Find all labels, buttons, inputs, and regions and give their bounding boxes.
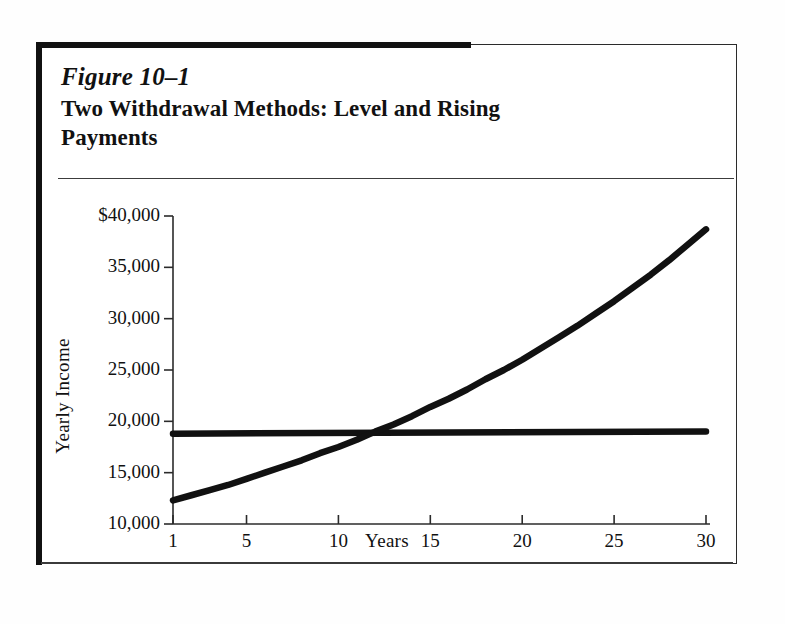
x-tick-label: 25 bbox=[584, 530, 644, 552]
x-tick-label: 10 bbox=[308, 530, 368, 552]
x-tick-label: 15 bbox=[400, 530, 460, 552]
figure-page: Figure 10–1 Two Withdrawal Methods: Leve… bbox=[0, 0, 785, 624]
y-tick-label: 25,000 bbox=[108, 358, 160, 380]
chart-area: Yearly Income Years 10,00015,00020,00025… bbox=[37, 44, 737, 564]
chart-plot-svg bbox=[37, 44, 737, 564]
y-tick-label: $40,000 bbox=[98, 204, 160, 226]
y-tick-label: 20,000 bbox=[108, 409, 160, 431]
figure-frame: Figure 10–1 Two Withdrawal Methods: Leve… bbox=[37, 44, 737, 564]
y-tick-label: 35,000 bbox=[108, 255, 160, 277]
y-tick-label: 30,000 bbox=[108, 307, 160, 329]
x-tick-label: 20 bbox=[492, 530, 552, 552]
x-tick-label: 5 bbox=[217, 530, 277, 552]
x-tick-label: 30 bbox=[676, 530, 736, 552]
y-tick-label: 15,000 bbox=[108, 461, 160, 483]
chart-series-group bbox=[173, 229, 706, 500]
x-tick-label: 1 bbox=[143, 530, 203, 552]
